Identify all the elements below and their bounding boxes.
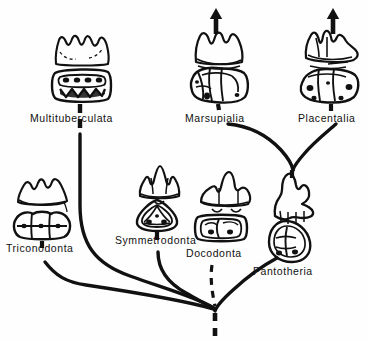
branch-triconodonta	[45, 262, 214, 309]
tooth-crown-placentalia	[306, 31, 358, 69]
terminal-arrow-marsupialia	[210, 8, 222, 34]
taxon-label-pantotheria: Pantotheria	[253, 266, 313, 277]
tooth-occlusal-multituberculata	[52, 69, 111, 101]
taxon-label-marsupialia: Marsupialia	[185, 113, 245, 124]
taxon-label-triconodonta: Triconodonta	[6, 243, 74, 254]
tooth-occlusal-symmetrodonta	[137, 200, 177, 231]
branch-docodonta	[211, 265, 215, 306]
tooth-crown-marsupialia	[196, 33, 243, 69]
branch-placentalia	[293, 124, 336, 170]
tooth-occlusal-triconodonta	[14, 212, 70, 240]
tooth-crown-multituberculata	[56, 36, 109, 66]
tooth-occlusal-placentalia	[301, 69, 359, 102]
taxon-label-placentalia: Placentalia	[298, 113, 355, 124]
terminal-arrow-placentalia	[327, 8, 339, 34]
tooth-crown-pantotheria	[275, 174, 313, 224]
taxon-label-multituberculata: Multituberculata	[30, 113, 113, 124]
tooth-crown-triconodonta	[18, 179, 67, 212]
tooth-crown-symmetrodonta	[140, 166, 179, 204]
tooth-crown-docodonta	[201, 172, 250, 212]
taxon-label-symmetrodonta: Symmetrodonta	[115, 235, 196, 246]
tooth-occlusal-pantotheria	[269, 221, 310, 262]
taxon-label-docodonta: Docodonta	[186, 248, 242, 259]
connector-marsupialia	[218, 104, 219, 110]
tooth-occlusal-docodonta	[195, 215, 247, 242]
branch-symmetrodonta	[158, 252, 214, 309]
phylogenetic-tree-figure	[0, 0, 368, 341]
branch-marsupialia	[228, 124, 293, 170]
tooth-occlusal-marsupialia	[191, 68, 248, 103]
